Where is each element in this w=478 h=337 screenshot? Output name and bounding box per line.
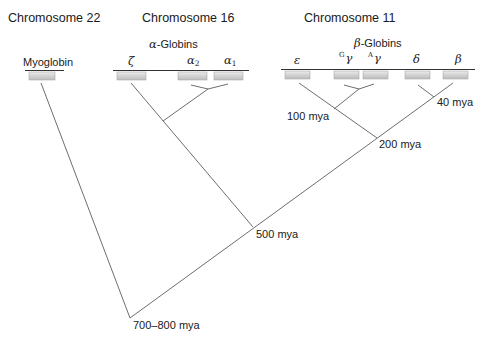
branch-g-gamma bbox=[344, 85, 359, 89]
gene-box-beta bbox=[443, 71, 468, 79]
branch-delta bbox=[418, 85, 434, 97]
alpha-globins-label: α-Globins bbox=[149, 39, 198, 51]
gene-label-myoglobin: Myoglobin bbox=[23, 57, 73, 68]
chromosome-11-title: Chromosome 11 bbox=[304, 12, 395, 25]
branch-alpha2 bbox=[191, 85, 208, 89]
branch-a-gamma bbox=[359, 84, 374, 89]
branch-gamma-junction bbox=[334, 89, 359, 109]
beta-symbol: β bbox=[354, 36, 361, 50]
gene-box-a-gamma bbox=[363, 71, 388, 79]
subscript-1: 1 bbox=[232, 59, 237, 68]
gene-label-zeta: ζ bbox=[128, 56, 134, 68]
branch-alpha1 bbox=[208, 84, 228, 89]
chromosome-22-title: Chromosome 22 bbox=[8, 12, 100, 25]
gene-label-epsilon: ε bbox=[294, 55, 300, 67]
gene-box-zeta bbox=[117, 72, 146, 80]
alpha-symbol: α bbox=[187, 53, 195, 67]
gene-label-g-gamma: Gγ bbox=[339, 52, 352, 65]
alpha-symbol: α bbox=[149, 37, 157, 51]
subscript-2: 2 bbox=[195, 59, 200, 68]
branch-myoglobin bbox=[41, 83, 130, 318]
chromosome-16-title: Chromosome 16 bbox=[142, 12, 234, 25]
superscript-g: G bbox=[339, 51, 345, 59]
beta-globins-label: β-Globins bbox=[354, 38, 402, 50]
divergence-label-200: 200 mya bbox=[379, 139, 421, 150]
gamma-symbol: γ bbox=[346, 51, 353, 65]
divergence-label-40: 40 mya bbox=[437, 97, 473, 108]
tree-graphics bbox=[0, 0, 478, 337]
gene-box-delta bbox=[405, 71, 430, 79]
gene-box-alpha1 bbox=[214, 72, 243, 80]
gene-box-epsilon bbox=[285, 71, 310, 79]
alpha-symbol: α bbox=[224, 53, 232, 67]
globins-text: -Globins bbox=[157, 38, 198, 50]
tree-branches bbox=[41, 83, 453, 318]
branch-alpha-junction bbox=[163, 89, 208, 121]
gamma-symbol: γ bbox=[374, 51, 381, 65]
gene-box-alpha2 bbox=[178, 72, 207, 80]
gene-box-myoglobin bbox=[29, 72, 55, 80]
globins-text: -Globins bbox=[361, 37, 402, 49]
gene-label-alpha2: α2 bbox=[187, 55, 200, 68]
divergence-label-700-800: 700–800 mya bbox=[133, 320, 200, 331]
globin-evolution-diagram: Chromosome 22 Chromosome 16 Chromosome 1… bbox=[0, 0, 478, 337]
gene-label-beta: β bbox=[455, 54, 462, 66]
superscript-a: A bbox=[368, 51, 373, 59]
gene-label-delta: δ bbox=[413, 54, 420, 66]
gene-label-a-gamma: Aγ bbox=[368, 52, 381, 65]
gene-label-alpha1: α1 bbox=[224, 55, 237, 68]
divergence-label-500: 500 mya bbox=[256, 229, 298, 240]
divergence-label-100: 100 mya bbox=[287, 111, 329, 122]
branch-zeta bbox=[131, 83, 253, 227]
gene-box-g-gamma bbox=[334, 71, 359, 79]
